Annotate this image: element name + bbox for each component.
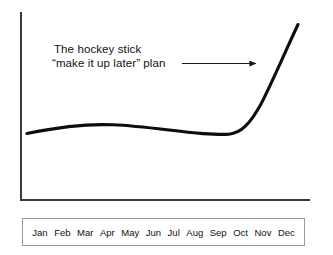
month-label-jun: Jun (142, 227, 164, 238)
month-label-oct: Oct (230, 227, 251, 238)
month-label-may: May (118, 227, 142, 238)
month-label-sep: Sep (206, 227, 229, 238)
month-label-jul: Jul (164, 227, 183, 238)
hockey-stick-callout-text: The hockey stick “make it up later” plan (54, 42, 166, 70)
month-label-nov: Nov (251, 227, 274, 238)
month-label-mar: Mar (74, 227, 97, 238)
hockey-stick-curve (27, 25, 298, 135)
month-label-apr: Apr (97, 227, 118, 238)
callout-line-2: “make it up later” plan (54, 56, 166, 70)
month-label-feb: Feb (51, 227, 74, 238)
callout-line-1: The hockey stick (54, 42, 166, 56)
chart-canvas (0, 0, 333, 255)
hockey-stick-chart-figure: The hockey stick “make it up later” plan… (0, 0, 333, 255)
month-label-jan: Jan (29, 227, 51, 238)
month-label-dec: Dec (275, 227, 298, 238)
month-axis-labels-box: Jan Feb Mar Apr May Jun Jul Aug Sep Oct … (22, 218, 305, 246)
month-label-aug: Aug (183, 227, 206, 238)
